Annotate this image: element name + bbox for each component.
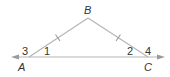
angle-label-3: 3 <box>22 45 28 57</box>
tick-mark-ab <box>56 35 61 42</box>
angle-label-1: 1 <box>44 45 50 57</box>
side-ab <box>29 18 88 57</box>
arrowhead-left-icon <box>11 55 19 60</box>
triangle-diagram: B A C 3 1 2 4 <box>0 0 170 77</box>
arrowhead-right-icon <box>157 55 165 60</box>
vertex-label-a: A <box>17 61 25 73</box>
line-ac <box>11 55 165 60</box>
vertex-label-c: C <box>144 61 152 73</box>
vertex-label-b: B <box>84 4 91 16</box>
tick-mark-bc <box>116 35 121 42</box>
angle-label-4: 4 <box>145 45 151 57</box>
angle-label-2: 2 <box>127 45 133 57</box>
